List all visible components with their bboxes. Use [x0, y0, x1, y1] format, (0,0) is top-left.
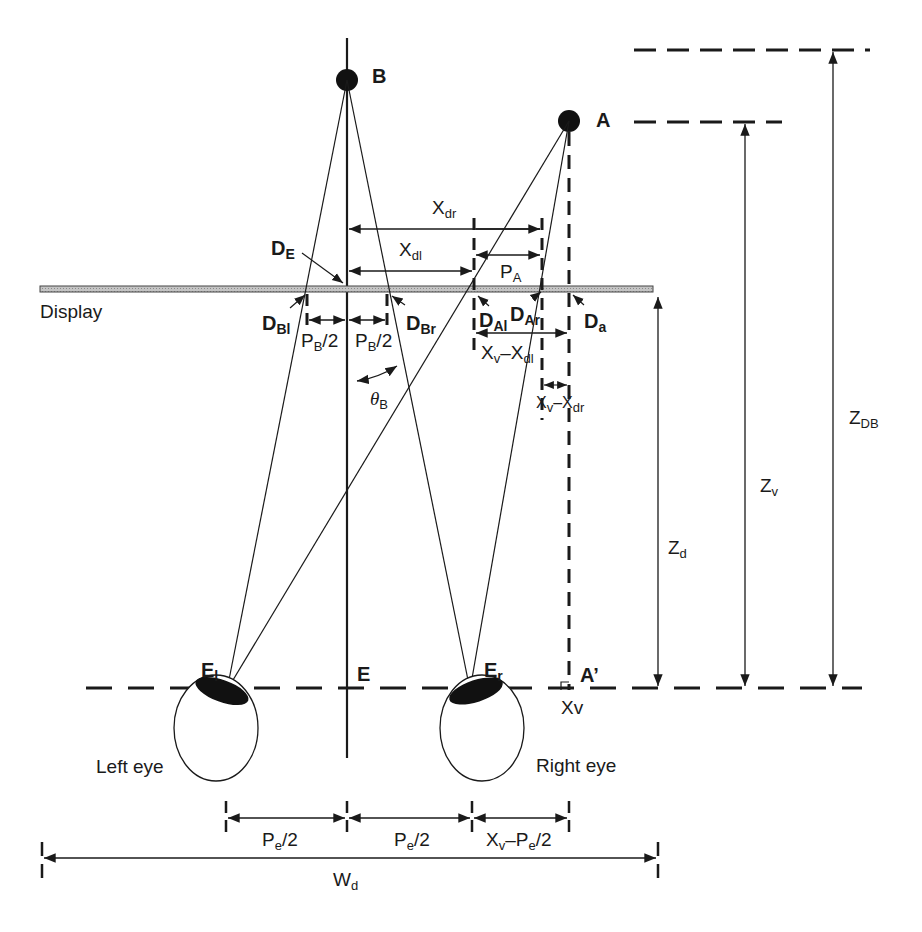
label-xv: Xv — [561, 698, 583, 717]
label-right-eye: Right eye — [536, 756, 616, 775]
label-pb2-left: PB/2 — [301, 331, 338, 353]
label-xdr: Xdr — [432, 198, 456, 220]
label-zv: Zv — [760, 476, 778, 498]
label-pa: PA — [500, 262, 521, 284]
label-dal: DAl — [479, 310, 507, 333]
label-point-b: B — [372, 66, 386, 86]
label-xv-minus-xdl: Xv–Xdl — [481, 343, 534, 365]
label-er: Er — [484, 660, 503, 683]
label-point-a: A — [596, 110, 610, 130]
label-pe2-left: Pe/2 — [262, 830, 298, 852]
label-de: DE — [271, 238, 295, 261]
label-xv-minus-pe2: Xv–Pe/2 — [486, 830, 552, 852]
label-display: Display — [40, 302, 102, 321]
label-theta-b: θB — [370, 389, 388, 411]
label-el: El — [201, 660, 218, 683]
label-point-a-prime: A’ — [580, 665, 599, 685]
label-da: Da — [584, 311, 606, 334]
label-dar: DAr — [510, 304, 540, 327]
label-left-eye: Left eye — [96, 757, 164, 776]
label-wd: Wd — [333, 870, 358, 892]
label-xv-minus-xdr: Xv–Xdr — [536, 395, 584, 414]
label-dbl: DBl — [262, 313, 290, 336]
label-dbr: DBr — [406, 313, 436, 336]
label-e: E — [357, 664, 370, 684]
label-zd: Zd — [668, 538, 687, 560]
display-bar — [40, 286, 653, 292]
label-xdl: Xdl — [399, 240, 422, 262]
stereo-geometry-diagram: B A A’ Display DE DBl DBr DAl DAr Da Xdr… — [0, 0, 922, 932]
label-pb2-right: PB/2 — [355, 331, 392, 353]
label-zdb: ZDB — [849, 408, 879, 430]
diagram-canvas — [0, 0, 922, 932]
label-pe2-right: Pe/2 — [394, 830, 430, 852]
